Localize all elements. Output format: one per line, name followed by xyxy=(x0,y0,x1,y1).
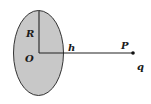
label-o: O xyxy=(25,53,34,64)
label-r: R xyxy=(25,28,34,39)
label-h: h xyxy=(68,42,75,53)
disk-diagram: R O h P q xyxy=(0,0,151,104)
label-p: P xyxy=(120,40,129,51)
point-p-dot xyxy=(131,51,135,55)
label-q: q xyxy=(137,61,144,72)
